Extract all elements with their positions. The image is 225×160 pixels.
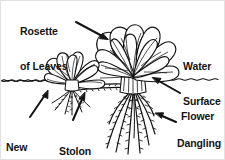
label-dangling-line1: Dangling <box>177 138 221 150</box>
leader-arrow-rosette <box>76 22 108 40</box>
label-new-plant: New Plant <box>6 119 31 160</box>
diagram-canvas: Rosette of Leaves Water Surface Flower D… <box>0 0 225 160</box>
dangling-roots <box>106 92 156 154</box>
label-rosette-line1: Rosette <box>20 26 68 38</box>
label-dangling-roots: Dangling Roots <box>177 115 221 160</box>
label-rosette-of-leaves: Rosette of Leaves <box>20 3 68 95</box>
label-water-line1: Water <box>183 61 221 73</box>
label-stolon-line1: Stolon <box>59 146 91 158</box>
label-rosette-line2: of Leaves <box>20 61 68 73</box>
leader-arrow-dangling <box>156 113 177 122</box>
label-stolon: Stolon <box>59 123 91 160</box>
label-newplant-line1: New <box>6 142 31 154</box>
